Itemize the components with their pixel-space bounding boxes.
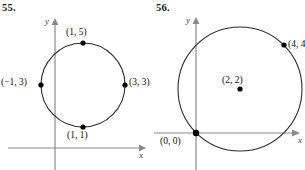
point-1-5 (80, 40, 85, 45)
point-label-2-2: (2, 2) (222, 75, 243, 85)
point-center-2-2 (237, 86, 242, 91)
point-4-4 (281, 42, 286, 47)
point-label-neg1-3: (−1, 3) (1, 77, 27, 87)
point-origin-0-0 (193, 130, 199, 136)
y-axis-label-55: y (45, 16, 49, 26)
exercise-figure-page: 55. y x (1, 5) (−1, 3) (3, 3) (0, 0, 305, 170)
figure-56: 56. y x (4, 4) (2, 2) (0, 0) (152, 0, 305, 170)
point-label-1-1: (1, 1) (67, 130, 88, 140)
y-axis-56 (193, 17, 200, 170)
point-1-1 (80, 124, 85, 129)
y-axis-55 (52, 18, 59, 170)
x-axis-label-56: x (298, 135, 302, 145)
point-neg1-3 (38, 82, 43, 87)
y-axis-label-56: y (186, 15, 190, 25)
figure-55: 55. y x (1, 5) (−1, 3) (3, 3) (0, 0, 152, 170)
point-label-1-5: (1, 5) (66, 27, 87, 37)
point-label-0-0: (0, 0) (160, 136, 181, 146)
x-axis-55 (8, 145, 146, 152)
circle-55 (41, 43, 125, 127)
point-label-4-4: (4, 4) (288, 39, 305, 49)
point-label-3-3: (3, 3) (129, 77, 150, 87)
point-3-3 (122, 82, 127, 87)
x-axis-label-55: x (139, 150, 143, 160)
